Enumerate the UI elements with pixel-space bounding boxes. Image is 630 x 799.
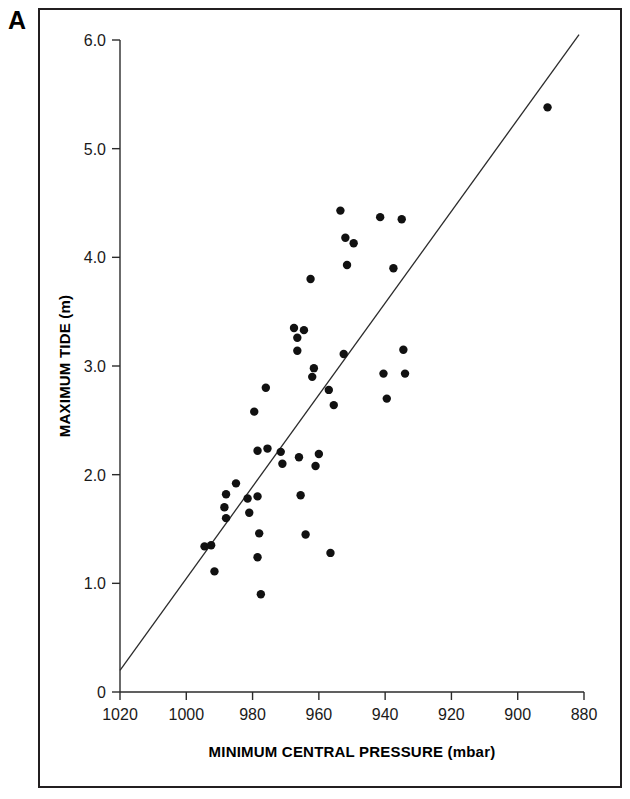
data-points-group <box>200 103 551 598</box>
data-point <box>543 103 551 111</box>
axes-group <box>120 40 584 692</box>
x-tick-label: 900 <box>504 706 531 723</box>
data-point <box>300 326 308 334</box>
y-tick-label: 4.0 <box>84 249 106 266</box>
data-point <box>398 215 406 223</box>
x-tick-label: 980 <box>239 706 266 723</box>
x-tick-label: 960 <box>306 706 333 723</box>
data-point <box>263 444 271 452</box>
x-axis-tick-labels: 10201000980960940920900880 <box>102 706 597 723</box>
data-point <box>245 509 253 517</box>
data-point <box>253 492 261 500</box>
data-point <box>262 384 270 392</box>
figure-panel: A 01.02.03.04.05.06.0 102010009809609409… <box>0 0 630 799</box>
scatter-plot: 01.02.03.04.05.06.0 10201000980960940920… <box>0 0 630 799</box>
data-point <box>340 350 348 358</box>
data-point <box>222 514 230 522</box>
data-point <box>310 364 318 372</box>
data-point <box>210 567 218 575</box>
y-tick-label: 6.0 <box>84 32 106 49</box>
y-axis-tick-labels: 01.02.03.04.05.06.0 <box>84 32 106 701</box>
y-tick-label: 3.0 <box>84 358 106 375</box>
data-point <box>301 530 309 538</box>
data-point <box>257 590 265 598</box>
data-point <box>278 460 286 468</box>
trend-line-group <box>120 35 579 671</box>
data-point <box>306 275 314 283</box>
data-point <box>399 346 407 354</box>
data-point <box>243 494 251 502</box>
data-point <box>326 549 334 557</box>
y-tick-label: 0 <box>97 684 106 701</box>
regression-trend-line <box>120 35 579 671</box>
data-point <box>293 347 301 355</box>
y-tick-label: 5.0 <box>84 141 106 158</box>
data-point <box>401 369 409 377</box>
data-point <box>383 394 391 402</box>
data-point <box>295 453 303 461</box>
x-axis-ticks <box>120 692 584 700</box>
x-tick-label: 940 <box>372 706 399 723</box>
data-point <box>389 264 397 272</box>
y-tick-label: 1.0 <box>84 575 106 592</box>
x-tick-label: 880 <box>571 706 598 723</box>
data-point <box>255 529 263 537</box>
data-point <box>207 541 215 549</box>
x-tick-label: 1020 <box>102 706 138 723</box>
data-point <box>330 401 338 409</box>
data-point <box>308 373 316 381</box>
y-axis-ticks <box>112 40 120 692</box>
data-point <box>376 213 384 221</box>
data-point <box>232 479 240 487</box>
data-point <box>222 490 230 498</box>
x-tick-label: 920 <box>438 706 465 723</box>
y-tick-label: 2.0 <box>84 467 106 484</box>
data-point <box>293 334 301 342</box>
data-point <box>336 206 344 214</box>
data-point <box>311 462 319 470</box>
data-point <box>343 261 351 269</box>
data-point <box>253 553 261 561</box>
data-point <box>220 503 228 511</box>
data-point <box>315 450 323 458</box>
data-point <box>325 386 333 394</box>
data-point <box>341 234 349 242</box>
x-tick-label: 1000 <box>168 706 204 723</box>
y-axis-title: MAXIMUM TIDE (m) <box>56 295 73 437</box>
data-point <box>250 407 258 415</box>
data-point <box>253 447 261 455</box>
data-point <box>296 491 304 499</box>
data-point <box>379 369 387 377</box>
x-axis-title: MINIMUM CENTRAL PRESSURE (mbar) <box>209 743 496 760</box>
data-point <box>349 239 357 247</box>
data-point <box>290 324 298 332</box>
data-point <box>277 448 285 456</box>
